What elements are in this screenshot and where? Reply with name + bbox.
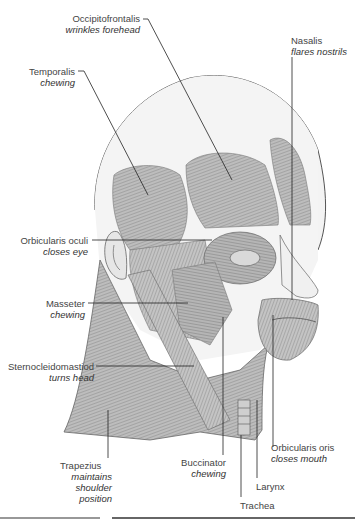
label-name: Trapezius [60, 460, 112, 471]
label-function: turns head [0, 372, 94, 383]
label-sternocleidomastoid: Sternocleidomastiod turns head [0, 361, 94, 383]
label-trachea: Trachea [240, 500, 275, 511]
label-function: chewing [0, 309, 85, 320]
label-function: closes mouth [271, 453, 334, 464]
label-name: Orbicularis oris [271, 442, 334, 453]
label-larynx: Larynx [256, 481, 285, 492]
label-occipitofrontalis: Occipitofrontalis wrinkles forehead [60, 13, 140, 35]
label-function-line-2: shoulder [60, 482, 112, 493]
label-name: Masseter [0, 298, 85, 309]
label-function: chewing [10, 77, 75, 88]
mouth-region [258, 298, 318, 360]
label-name: Temporalis [10, 66, 75, 77]
label-name: Larynx [256, 481, 285, 492]
label-orbicularis-oris: Orbicularis oris closes mouth [271, 442, 334, 464]
label-name: Nasalis [291, 35, 347, 46]
label-name: Sternocleidomastiod [0, 361, 94, 372]
label-trapezius: Trapezius maintains shoulder position [60, 460, 112, 504]
label-name: Occipitofrontalis [60, 13, 140, 24]
eye [230, 250, 260, 266]
label-function: flares nostrils [291, 46, 347, 57]
label-name: Trachea [240, 500, 275, 511]
label-function: wrinkles forehead [60, 24, 140, 35]
label-function: closes eye [0, 246, 88, 257]
label-name: Buccinator [170, 457, 226, 468]
label-buccinator: Buccinator chewing [170, 457, 226, 479]
trachea-rings [238, 400, 250, 435]
label-orbicularis-oculi: Orbicularis oculi closes eye [0, 235, 88, 257]
label-temporalis: Temporalis chewing [10, 66, 75, 88]
label-name: Orbicularis oculi [0, 235, 88, 246]
label-function: chewing [170, 468, 226, 479]
label-function-line-1: maintains [60, 471, 112, 482]
temporalis-muscle [113, 166, 188, 250]
label-masseter: Masseter chewing [0, 298, 85, 320]
label-nasalis: Nasalis flares nostrils [291, 35, 347, 57]
label-function-line-3: position [60, 493, 112, 504]
